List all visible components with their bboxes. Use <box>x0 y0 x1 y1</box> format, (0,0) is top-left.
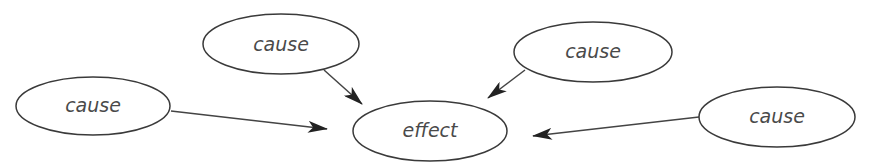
edge-cause-top-right-to-effect <box>488 70 525 98</box>
cause-effect-diagram: cause cause effect cause cause <box>0 0 875 162</box>
node-effect: effect <box>353 101 507 161</box>
edge-cause-left-to-effect <box>171 111 327 129</box>
node-cause-right: cause <box>699 87 855 147</box>
node-label: cause <box>65 94 121 116</box>
node-label: cause <box>565 40 621 62</box>
node-cause-top-right: cause <box>514 22 672 82</box>
node-label: effect <box>403 119 460 141</box>
edge-cause-top-left-to-effect <box>324 70 362 104</box>
node-cause-left: cause <box>16 77 170 135</box>
node-label: cause <box>253 33 309 55</box>
node-cause-top-left: cause <box>203 14 359 74</box>
node-label: cause <box>749 105 805 127</box>
edge-cause-right-to-effect <box>533 117 699 136</box>
